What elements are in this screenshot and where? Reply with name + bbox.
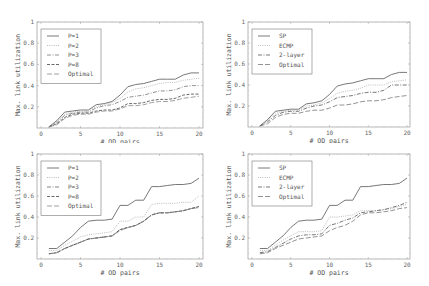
x-tick-label: 15 (365, 129, 373, 136)
y-tick-label: 0.6 (23, 192, 34, 199)
y-tick-label: 0.2 (23, 103, 34, 110)
x-tick-label: 20 (403, 261, 411, 268)
y-tick-label: 0.6 (234, 60, 245, 67)
y-tick-label: 0.6 (234, 192, 245, 199)
legend-label: P=3 (68, 51, 79, 58)
legend-label: P=8 (68, 193, 79, 200)
y-tick-label: 0.8 (234, 171, 245, 178)
legend-label: SP (279, 164, 287, 171)
y-tick-label: 0.8 (234, 39, 245, 46)
legend-label: Optimal (279, 193, 305, 201)
y-tick-label: 1 (241, 150, 245, 157)
x-axis-title: # OD pairs (100, 269, 139, 277)
y-tick-label: 1 (241, 18, 245, 25)
x-tick-label: 10 (326, 261, 334, 268)
legend-label: ECMP (279, 42, 294, 49)
x-tick-label: 10 (116, 261, 124, 268)
y-tick-label: 0.4 (234, 213, 245, 220)
legend-label: P=1 (68, 32, 79, 39)
legend-label: P=2 (68, 174, 79, 181)
x-tick-label: 0 (250, 261, 254, 268)
chart-bottom-left: 051015200.20.40.60.81# OD pairsMax. link… (0, 143, 214, 286)
x-tick-label: 15 (156, 130, 164, 137)
y-tick-label: 0.4 (23, 82, 34, 89)
x-tick-label: 5 (79, 261, 83, 268)
x-tick-label: 5 (289, 129, 293, 136)
x-tick-label: 15 (156, 261, 164, 268)
series-line-2-layer (260, 202, 407, 252)
y-tick-label: 0.4 (234, 81, 245, 88)
y-axis-title: Max. link utilization (225, 33, 233, 115)
legend-label: 2-layer (279, 183, 305, 191)
x-axis-title: # OD pairs (309, 269, 348, 277)
legend-label: Optimal (68, 202, 94, 210)
x-tick-label: 0 (250, 129, 254, 136)
series-line-p-2 (49, 78, 199, 127)
x-tick-label: 15 (365, 261, 373, 268)
series-line-ecmp (260, 80, 407, 126)
y-tick-label: 0.8 (23, 39, 34, 46)
chart-svg: 051015200.20.40.60.81# OD pairsMax. link… (0, 143, 214, 286)
y-axis-title: Max. link utilization (14, 34, 22, 116)
y-tick-label: 0.6 (23, 60, 34, 67)
y-axis-title: Max. link utilization (225, 165, 233, 247)
legend-label: P=3 (68, 183, 79, 190)
chart-svg: 051015200.20.40.60.81# OD pairsMax. link… (215, 0, 429, 143)
legend-label: Optimal (279, 61, 305, 69)
series-line-optimal (260, 208, 407, 254)
x-tick-label: 10 (116, 130, 124, 137)
x-tick-label: 20 (403, 129, 411, 136)
x-tick-label: 10 (326, 129, 334, 136)
y-tick-label: 0.2 (234, 234, 245, 241)
y-tick-label: 0.8 (23, 171, 34, 178)
y-tick-label: 1 (30, 18, 34, 25)
x-tick-label: 5 (289, 261, 293, 268)
x-tick-label: 0 (39, 261, 43, 268)
series-line-2-layer (260, 85, 407, 126)
series-line-p-3 (49, 86, 199, 127)
chart-bottom-right: 051015200.20.40.60.81# OD pairsMax. link… (215, 143, 429, 286)
legend-label: 2-layer (279, 51, 305, 59)
x-tick-label: 20 (195, 261, 203, 268)
chart-svg: 051015200.20.40.60.81# OD pairsMax. link… (0, 0, 214, 143)
y-tick-label: 0.2 (234, 102, 245, 109)
chart-top-right: 051015200.20.40.60.81# OD pairsMax. link… (215, 0, 429, 143)
x-tick-label: 5 (79, 130, 83, 137)
y-tick-label: 0.4 (23, 213, 34, 220)
legend-label: P=2 (68, 42, 79, 49)
chart-svg: 051015200.20.40.60.81# OD pairsMax. link… (215, 143, 429, 286)
legend-label: Optimal (68, 70, 94, 78)
y-tick-label: 1 (30, 150, 34, 157)
y-tick-label: 0.2 (23, 234, 34, 241)
x-tick-label: 20 (195, 130, 203, 137)
x-tick-label: 0 (39, 130, 43, 137)
y-axis-title: Max. link utilization (14, 165, 22, 247)
chart-top-left: 051015200.20.40.60.81# OD pairsMax. link… (0, 0, 214, 143)
legend-label: ECMP (279, 174, 294, 181)
legend-label: SP (279, 32, 287, 39)
legend-label: P=1 (68, 164, 79, 171)
legend-label: P=8 (68, 61, 79, 68)
